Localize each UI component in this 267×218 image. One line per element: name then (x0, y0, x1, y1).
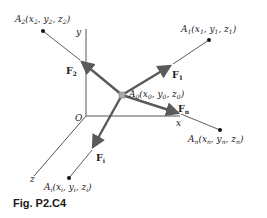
figure-caption: Fig. P2.C4 (13, 197, 66, 209)
line-a0-a2 (43, 31, 80, 60)
force-arrow-f2 (82, 62, 122, 95)
point-a1-dot (207, 38, 211, 42)
point-a2-dot (41, 29, 45, 33)
point-a0-label: A0(x0, y0, z0) (128, 89, 185, 100)
force-arrows (82, 62, 178, 147)
axes (34, 29, 180, 176)
origin-label: O (75, 113, 83, 123)
y-axis-label: y (75, 27, 82, 37)
point-a0-marker (119, 92, 125, 98)
force-label-f1: F1 (172, 69, 183, 81)
force-arrow-fi (93, 95, 122, 147)
x-axis-label: x (176, 118, 181, 128)
line-a0-a1 (173, 40, 209, 64)
point-a1-label: A1(x1, y1, z1) (180, 24, 237, 35)
point-ai-label: Ai(xi, yi, zi) (43, 182, 92, 193)
point-an-dot (218, 128, 222, 132)
line-a0-ai (69, 150, 92, 178)
force-diagram: y x z O A2(x2, y2, z2) A1(x1, y1, z1) A0… (0, 0, 267, 218)
force-label-fn: Fn (178, 103, 190, 115)
point-an-label: An(xn, yn, zn) (187, 134, 244, 145)
point-ai-dot (67, 176, 71, 180)
point-a2-label: A2(x2, y2, z2) (14, 14, 71, 25)
force-label-fi: Fi (96, 152, 106, 164)
line-a0-an (181, 114, 220, 130)
force-label-f2: F2 (66, 65, 77, 77)
z-axis-label: z (29, 174, 35, 184)
